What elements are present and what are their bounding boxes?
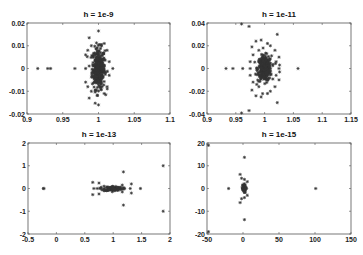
data-point [242,190,245,193]
data-point [243,218,246,221]
data-point [264,71,267,74]
data-point [92,70,95,73]
y-tick-label: 0 [201,65,205,72]
data-point [247,109,250,112]
data-point [249,74,252,77]
data-point [98,54,101,57]
data-point [265,78,268,81]
data-point [277,67,280,70]
data-point [112,188,115,191]
subplot-title: h = 1e-9 [83,10,114,19]
data-point [260,38,263,41]
data-point [103,189,106,192]
data-point [265,81,268,84]
data-point [97,72,100,75]
data-point [243,196,246,199]
data-point [103,64,106,67]
x-tick-label: 0 [54,236,58,243]
data-point [275,60,278,63]
data-point [240,111,243,114]
data-point [257,85,260,88]
data-point [276,101,279,104]
data-point [207,144,210,147]
data-point [240,197,243,200]
data-point [262,59,265,62]
data-point [96,94,99,97]
scatter-series [207,144,317,234]
data-point [249,60,252,63]
y-tick-label: 20 [197,140,205,147]
data-point [246,194,249,197]
data-point [130,191,133,194]
data-point [249,67,252,70]
data-point [100,73,103,76]
data-point [259,77,262,80]
data-point [261,62,264,65]
data-point [86,85,89,88]
y-tick-label: 0 [21,65,25,72]
data-point [246,180,249,183]
data-point [269,44,272,47]
data-point [105,49,108,52]
data-point [94,102,97,105]
data-point [257,49,260,52]
subplot-h-1e-11: h = 1e-110.90.9511.051.11.150.040.020-0.… [189,10,358,123]
data-point [245,187,248,190]
scatter-series [42,164,165,213]
subplot-title: h = 1e-11 [262,10,297,19]
data-point [97,66,100,69]
data-point [97,181,100,184]
x-tick-label: 1.05 [127,116,141,123]
data-point [96,57,99,60]
y-tick-label: 0 [201,185,205,192]
data-point [239,201,242,204]
data-point [93,53,96,56]
data-point [103,58,106,61]
data-point [88,64,91,67]
data-point [296,67,299,70]
data-point [240,177,243,180]
data-point [103,70,106,73]
data-point [276,33,279,36]
data-point [94,80,97,83]
data-point [123,187,126,190]
data-point [241,67,244,70]
data-point [254,94,257,97]
data-point [162,164,165,167]
x-tick-label: 0 [241,236,245,243]
data-point [121,183,124,186]
x-tick-label: 1.05 [287,116,301,123]
data-point [278,70,281,73]
data-point [111,67,114,70]
data-point [94,71,97,74]
data-point [90,90,93,93]
data-point [253,61,256,64]
x-tick-label: 1 [111,236,115,243]
data-point [84,81,87,84]
data-point [130,182,133,185]
x-tick-label: 150 [345,236,357,243]
data-point [314,187,317,190]
data-point [99,47,102,50]
data-point [102,80,105,83]
data-point [106,70,109,73]
y-tick-label: 2 [22,140,26,147]
data-point [231,67,234,70]
data-point [92,187,95,190]
scatter-series [224,22,299,114]
data-point [224,67,227,70]
data-point [270,73,273,76]
data-point [243,156,246,159]
data-point [250,89,253,92]
data-point [239,173,242,176]
data-point [94,89,97,92]
data-point [46,67,49,70]
data-point [108,74,111,77]
data-point [256,69,259,72]
data-point [227,187,230,190]
data-point [162,210,165,213]
data-point [266,92,269,95]
data-point [270,54,273,57]
data-point [265,52,268,55]
x-tick-label: 1.1 [317,116,327,123]
